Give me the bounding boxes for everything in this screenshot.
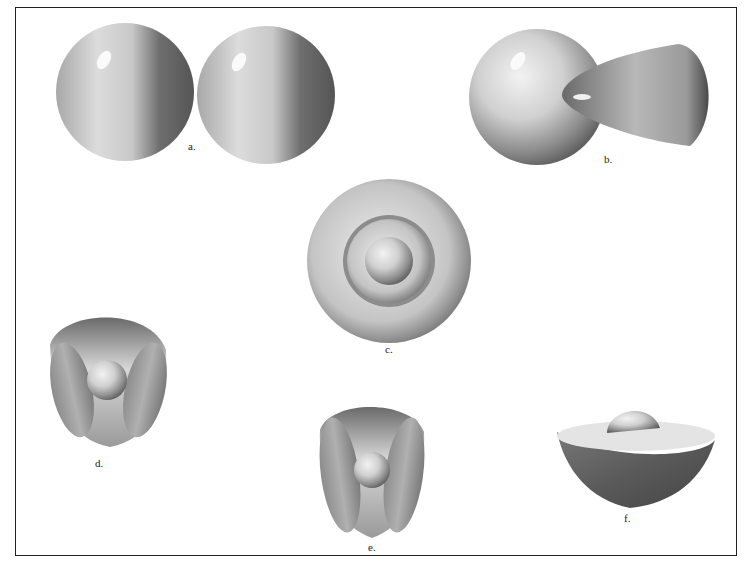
panel-label-a: a. xyxy=(188,140,196,152)
panel-a: a. xyxy=(56,23,335,164)
panel-label-e: e. xyxy=(368,541,376,553)
panel-b: b. xyxy=(469,29,709,165)
panel-label-b: b. xyxy=(604,153,613,165)
panel-label-f: f. xyxy=(624,512,631,524)
panel-label-d: d. xyxy=(95,457,104,469)
panel-d: d. xyxy=(42,318,174,470)
panel-f: f. xyxy=(557,411,715,524)
panel-label-c: c. xyxy=(385,343,393,355)
orbital-figure: a. b. c. d. e. f. xyxy=(0,0,746,564)
panel-e: e. xyxy=(313,407,431,553)
panel-c: c. xyxy=(307,179,471,355)
